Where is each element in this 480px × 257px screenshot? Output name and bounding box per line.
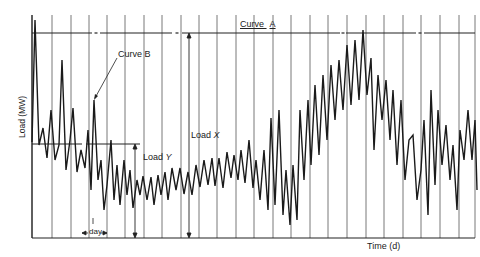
curve-a-label: Curve A [240, 19, 276, 29]
load-y-var: Y [166, 152, 172, 162]
y-axis-label: Load (MW) [17, 96, 27, 138]
load-x-var: X [214, 130, 220, 140]
load-y-label: Load Y [143, 152, 172, 162]
load-curve-diagram [0, 0, 480, 257]
day-label: day [89, 227, 102, 236]
curve-b-label: Curve B [118, 49, 151, 59]
x-axis-label: Time (d) [367, 241, 400, 251]
load-y-text: Load [143, 152, 163, 162]
curve-b-pointer [94, 58, 117, 100]
load-x-text: Load [191, 130, 211, 140]
curve-b-line [32, 20, 477, 225]
load-x-label: Load X [191, 130, 220, 140]
curve-a-letter: A [270, 19, 276, 29]
curve-a-text: Curve [240, 19, 264, 29]
vertical-gridlines [32, 15, 475, 238]
